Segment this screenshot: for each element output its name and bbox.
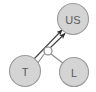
- node-junction-circle[interactable]: [44, 47, 52, 55]
- node-l-circle[interactable]: [60, 58, 89, 87]
- node-layer: US T L: [10, 4, 89, 87]
- edge-junction-to-l: [51, 54, 64, 64]
- node-t[interactable]: T: [10, 56, 41, 87]
- node-us-circle[interactable]: [58, 4, 89, 35]
- diagram-svg: US T L: [0, 0, 96, 92]
- node-l[interactable]: L: [60, 58, 89, 87]
- node-t-circle[interactable]: [10, 56, 41, 87]
- node-us[interactable]: US: [58, 4, 89, 35]
- causal-diagram-canvas: US T L: [0, 0, 96, 92]
- node-junction[interactable]: [44, 47, 52, 55]
